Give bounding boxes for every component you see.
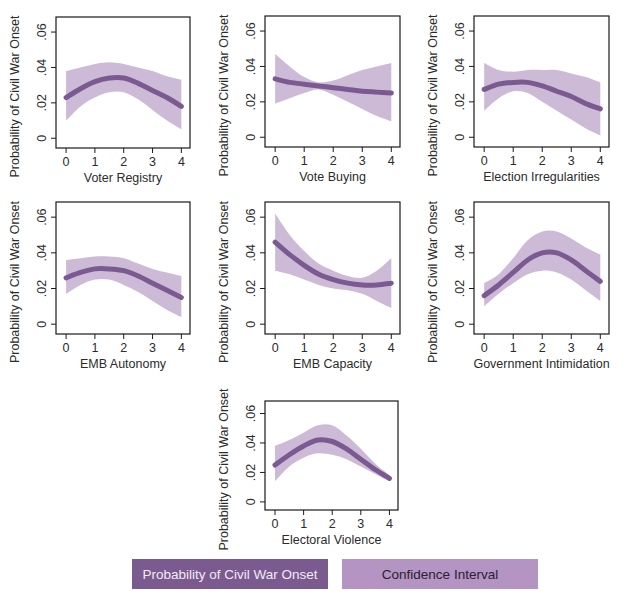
y-tick-label: 0 xyxy=(244,498,258,505)
x-tick-label: 4 xyxy=(386,517,393,531)
y-axis-label: Probability of Civil War Onset xyxy=(217,14,231,177)
x-tick-label: 3 xyxy=(568,341,575,355)
y-tick-label: .02 xyxy=(244,280,258,297)
y-tick-label: 0 xyxy=(35,135,49,142)
x-tick-label: 4 xyxy=(388,341,395,355)
x-tick-label: 2 xyxy=(120,341,127,355)
y-tick-label: 0 xyxy=(453,134,467,141)
panel-election-irregularities: 012340.02.04.06Election IrregularitiesPr… xyxy=(426,14,609,184)
y-axis-label: Probability of Civil War Onset xyxy=(8,15,22,178)
legend-item-probability: Probability of Civil War Onset xyxy=(132,559,328,589)
x-tick-label: 2 xyxy=(329,517,336,531)
panel-emb-autonomy: 012340.02.04.06EMB AutonomyProbability o… xyxy=(8,200,190,371)
legend-item-confidence-interval: Confidence Interval xyxy=(342,559,538,589)
x-tick-label: 1 xyxy=(301,341,308,355)
x-tick-label: 3 xyxy=(149,341,156,355)
y-tick-label: .04 xyxy=(453,58,467,75)
x-tick-label: 3 xyxy=(357,517,364,531)
x-tick-label: 0 xyxy=(481,154,488,168)
x-tick-label: 1 xyxy=(510,341,517,355)
y-axis-label: Probability of Civil War Onset xyxy=(426,200,440,363)
y-tick-label: .04 xyxy=(244,58,258,75)
x-tick-label: 4 xyxy=(178,155,185,169)
x-tick-label: 1 xyxy=(301,154,308,168)
x-tick-label: 0 xyxy=(272,341,279,355)
x-tick-label: 3 xyxy=(359,341,366,355)
x-tick-label: 4 xyxy=(597,154,604,168)
x-tick-label: 0 xyxy=(272,154,279,168)
figure-canvas: 012340.02.04.06Voter RegistryProbability… xyxy=(0,0,627,604)
y-tick-label: .02 xyxy=(453,93,467,110)
y-axis-label: Probability of Civil War Onset xyxy=(426,14,440,177)
x-axis-label: Election Irregularities xyxy=(483,170,600,184)
x-tick-label: 0 xyxy=(481,341,488,355)
y-tick-label: .06 xyxy=(244,22,258,39)
x-tick-label: 0 xyxy=(272,517,279,531)
panel-voter-registry: 012340.02.04.06Voter RegistryProbability… xyxy=(8,15,190,185)
x-axis-label: Vote Buying xyxy=(299,170,366,184)
x-tick-label: 2 xyxy=(330,341,337,355)
x-axis-label: EMB Autonomy xyxy=(80,357,167,371)
x-tick-label: 2 xyxy=(120,155,127,169)
y-axis-label: Probability of Civil War Onset xyxy=(8,200,22,363)
x-tick-label: 2 xyxy=(539,341,546,355)
y-tick-label: .02 xyxy=(244,93,258,110)
y-tick-label: 0 xyxy=(35,321,49,328)
y-tick-label: .04 xyxy=(453,244,467,261)
y-tick-label: .02 xyxy=(35,94,49,111)
y-tick-label: .02 xyxy=(35,280,49,297)
cropped-footnote xyxy=(120,598,550,604)
x-tick-label: 1 xyxy=(300,517,307,531)
y-tick-label: .04 xyxy=(244,434,258,451)
y-tick-label: .06 xyxy=(244,208,258,225)
x-tick-label: 3 xyxy=(568,154,575,168)
y-tick-label: .04 xyxy=(35,244,49,261)
x-tick-label: 0 xyxy=(63,155,70,169)
legend-label-confidence-interval: Confidence Interval xyxy=(382,567,498,582)
y-axis-label: Probability of Civil War Onset xyxy=(217,200,231,363)
panel-electoral-violence: 012340.02.04.06Electoral ViolenceProbabi… xyxy=(217,388,398,551)
panel-government-intimidation: 012340.02.04.06Government IntimidationPr… xyxy=(426,200,610,371)
x-axis-label: Voter Registry xyxy=(84,171,163,185)
y-tick-label: 0 xyxy=(244,134,258,141)
x-tick-label: 3 xyxy=(359,154,366,168)
x-tick-label: 4 xyxy=(388,154,395,168)
y-tick-label: .06 xyxy=(244,405,258,422)
y-tick-label: 0 xyxy=(453,321,467,328)
y-tick-label: .06 xyxy=(453,208,467,225)
panel-emb-capacity: 012340.02.04.06EMB CapacityProbability o… xyxy=(217,200,400,371)
x-tick-label: 3 xyxy=(149,155,156,169)
x-tick-label: 1 xyxy=(91,155,98,169)
y-tick-label: .04 xyxy=(244,244,258,261)
legend-label-probability: Probability of Civil War Onset xyxy=(142,567,317,582)
confidence-band xyxy=(484,63,600,136)
x-tick-label: 4 xyxy=(597,341,604,355)
x-axis-label: Government Intimidation xyxy=(473,357,609,371)
x-axis-label: Electoral Violence xyxy=(282,533,382,547)
x-tick-label: 4 xyxy=(178,341,185,355)
y-tick-label: .02 xyxy=(453,280,467,297)
x-tick-label: 1 xyxy=(510,154,517,168)
y-tick-label: 0 xyxy=(244,321,258,328)
x-tick-label: 1 xyxy=(91,341,98,355)
x-axis-label: EMB Capacity xyxy=(293,357,373,371)
y-tick-label: .04 xyxy=(35,59,49,76)
x-tick-label: 0 xyxy=(63,341,70,355)
y-axis-label: Probability of Civil War Onset xyxy=(217,388,231,551)
x-tick-label: 2 xyxy=(330,154,337,168)
y-tick-label: .06 xyxy=(35,208,49,225)
y-tick-label: .06 xyxy=(453,22,467,39)
y-tick-label: .02 xyxy=(244,464,258,481)
y-tick-label: .06 xyxy=(35,23,49,40)
panel-vote-buying: 012340.02.04.06Vote BuyingProbability of… xyxy=(217,14,400,184)
confidence-band xyxy=(275,214,391,309)
x-tick-label: 2 xyxy=(539,154,546,168)
